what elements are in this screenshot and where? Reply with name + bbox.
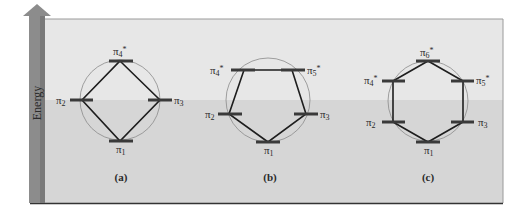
panel-label-c: (c) xyxy=(422,171,435,184)
panel-label-a: (a) xyxy=(115,171,128,184)
panel-label-b: (b) xyxy=(263,171,277,184)
frost-circle-figure: Energy π4* π2 π3 π1 (a) π4* π5* π2 π3 xyxy=(0,0,525,221)
arrow-head xyxy=(23,4,51,16)
energy-label: Energy xyxy=(30,86,44,120)
